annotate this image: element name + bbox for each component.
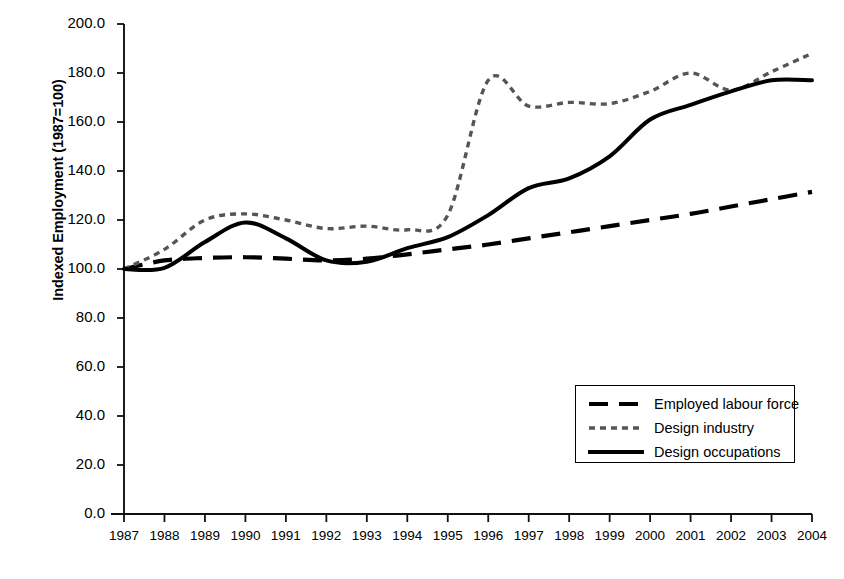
y-axis-tick-label: 100.0 bbox=[20, 259, 105, 276]
x-axis-tick-label: 1998 bbox=[546, 528, 592, 543]
legend-label: Design industry bbox=[654, 421, 754, 436]
legend-item[interactable]: Design occupations bbox=[588, 445, 781, 460]
x-axis-tick-label: 2000 bbox=[627, 528, 673, 543]
chart-figure: Indexed Employment (1987=100) 0.020.040.… bbox=[0, 0, 844, 579]
chart-legend: Employed labour forceDesign industryDesi… bbox=[575, 385, 795, 463]
x-axis-tick-label: 2002 bbox=[708, 528, 754, 543]
chart-series bbox=[124, 53, 812, 270]
x-axis-tick-label: 1994 bbox=[384, 528, 430, 543]
legend-label: Employed labour force bbox=[654, 397, 799, 412]
y-axis-tick-label: 0.0 bbox=[20, 504, 105, 521]
x-axis-tick-label: 1999 bbox=[587, 528, 633, 543]
x-axis-tick-label: 1987 bbox=[101, 528, 147, 543]
x-axis-tick-label: 1996 bbox=[465, 528, 511, 543]
y-axis-tick-label: 40.0 bbox=[20, 406, 105, 423]
y-axis-title: Indexed Employment (1987=100) bbox=[50, 40, 66, 340]
y-axis-tick-label: 180.0 bbox=[20, 63, 105, 80]
y-axis-tick-label: 200.0 bbox=[20, 14, 105, 31]
y-axis-tick-label: 120.0 bbox=[20, 210, 105, 227]
y-axis-tick-label: 160.0 bbox=[20, 112, 105, 129]
x-axis-tick-label: 2003 bbox=[749, 528, 795, 543]
x-axis-tick-label: 1997 bbox=[506, 528, 552, 543]
line-chart-canvas bbox=[0, 0, 844, 579]
x-axis-tick-label: 2004 bbox=[789, 528, 835, 543]
y-axis-tick-label: 80.0 bbox=[20, 308, 105, 325]
legend-swatch-dotted-icon bbox=[588, 421, 644, 435]
legend-swatch-solid-icon bbox=[588, 445, 644, 459]
x-axis-tick-label: 2001 bbox=[668, 528, 714, 543]
series-line-design-occupations bbox=[124, 80, 812, 271]
legend-item[interactable]: Employed labour force bbox=[588, 397, 799, 412]
x-axis-tick-label: 1992 bbox=[303, 528, 349, 543]
x-axis-tick-label: 1993 bbox=[344, 528, 390, 543]
y-axis-tick-label: 20.0 bbox=[20, 455, 105, 472]
x-axis-tick-label: 1988 bbox=[141, 528, 187, 543]
x-axis-tick-label: 1991 bbox=[263, 528, 309, 543]
x-axis-tick-label: 1995 bbox=[425, 528, 471, 543]
y-axis-tick-label: 140.0 bbox=[20, 161, 105, 178]
x-axis-tick-label: 1989 bbox=[182, 528, 228, 543]
legend-swatch-long-dash-icon bbox=[588, 397, 644, 411]
legend-item[interactable]: Design industry bbox=[588, 421, 754, 436]
y-axis-tick-label: 60.0 bbox=[20, 357, 105, 374]
legend-label: Design occupations bbox=[654, 445, 781, 460]
series-line-design-industry bbox=[124, 53, 812, 269]
x-axis-tick-label: 1990 bbox=[222, 528, 268, 543]
